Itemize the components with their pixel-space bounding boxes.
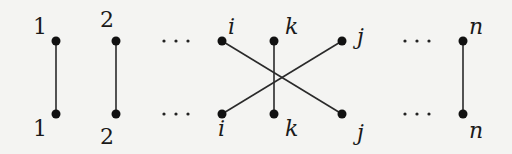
- label-bottom-1: 1: [33, 116, 47, 141]
- node-top-i: [218, 37, 227, 46]
- node-bottom-k: [270, 110, 279, 119]
- label-bottom-2: 2: [100, 124, 114, 149]
- node-bottom-n: [459, 110, 468, 119]
- label-bottom-j: j: [352, 120, 364, 145]
- label-bottom-n: n: [469, 118, 483, 143]
- label-top-i: i: [228, 14, 235, 39]
- node-bottom-2: [112, 110, 121, 119]
- node-top-1: [52, 37, 61, 46]
- label-top-1: 1: [33, 14, 47, 39]
- permutation-diagram: 1 2 i k j n 1 2 i k j n: [0, 0, 512, 154]
- node-bottom-j: [338, 110, 347, 119]
- ellipsis-bottom-left: [162, 112, 189, 115]
- node-top-k: [270, 37, 279, 46]
- ellipsis-bottom-right: [403, 112, 430, 115]
- ellipsis-top-right: [403, 39, 430, 42]
- node-top-j: [338, 37, 347, 46]
- node-top-2: [112, 37, 121, 46]
- label-top-n: n: [469, 14, 483, 39]
- ellipsis-top-left: [162, 39, 189, 42]
- label-bottom-i: i: [218, 116, 225, 141]
- label-top-2: 2: [100, 7, 114, 32]
- node-bottom-1: [52, 110, 61, 119]
- label-top-k: k: [285, 14, 298, 39]
- node-top-n: [459, 37, 468, 46]
- label-top-j: j: [352, 24, 364, 49]
- label-bottom-k: k: [285, 116, 298, 141]
